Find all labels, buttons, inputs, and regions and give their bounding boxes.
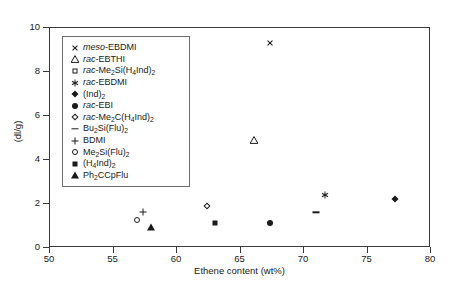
legend-item[interactable]: rac-EBTHI	[67, 54, 185, 66]
legend-marker	[67, 112, 83, 123]
triangle-open-marker-icon	[249, 136, 258, 144]
legend-marker	[67, 147, 83, 158]
x-tick-label: 60	[162, 253, 190, 264]
legend-marker	[67, 170, 83, 181]
legend-item[interactable]: rac-EBDMI	[67, 77, 185, 89]
x-tick-label: 55	[99, 253, 127, 264]
circle-open-marker-icon	[134, 217, 140, 223]
x-tick-label: 50	[35, 253, 63, 264]
asterisk-marker-icon	[72, 79, 79, 86]
legend-marker	[67, 100, 83, 111]
data-point	[206, 205, 207, 206]
y-tick-mark	[43, 27, 49, 28]
asterisk-marker-icon	[322, 191, 329, 198]
legend-item[interactable]: Ph2CCpFlu	[67, 170, 185, 182]
legend-marker	[67, 135, 83, 146]
y-tick-label: 8	[16, 65, 40, 76]
legend-item-label: rac-EBTHI	[83, 54, 125, 65]
square-open-marker-icon	[73, 68, 78, 73]
circle-filled-marker-icon	[72, 103, 78, 109]
legend-item[interactable]: meso-EBDMI	[67, 42, 185, 54]
legend-item[interactable]: (H4Ind)2	[67, 158, 185, 170]
diamond-filled-marker-icon	[71, 91, 78, 98]
data-point	[143, 212, 144, 213]
legend-item[interactable]: rac-EBI	[67, 100, 185, 112]
cross-marker-icon	[72, 44, 79, 51]
y-tick-mark	[43, 203, 49, 204]
data-point	[270, 223, 271, 224]
chart-legend: meso-EBDMIrac-EBTHIrac-Me2Si(H4Ind)2rac-…	[62, 36, 190, 187]
y-tick-label: 0	[16, 241, 40, 252]
y-tick-mark	[43, 71, 49, 72]
data-point	[137, 220, 138, 221]
data-point	[151, 226, 152, 227]
legend-item[interactable]: rac-Me2Si(H4Ind)2	[67, 65, 185, 77]
x-tick-label: 75	[353, 253, 381, 264]
square-filled-marker-icon	[73, 161, 78, 166]
legend-item[interactable]: Me2Si(Flu)2	[67, 146, 185, 158]
legend-item[interactable]: (Ind)2	[67, 88, 185, 100]
y-tick-label: 4	[16, 153, 40, 164]
x-tick-label: 80	[416, 253, 444, 264]
x-axis-title: Ethene content (wt%)	[49, 265, 430, 276]
circle-open-marker-icon	[72, 149, 78, 155]
dash-marker-icon	[72, 128, 79, 129]
y-tick-label: 10	[16, 21, 40, 32]
legend-item-label: rac-EBDMI	[83, 77, 127, 88]
legend-item-label: Me2Si(Flu)2	[83, 147, 130, 158]
data-point	[316, 212, 317, 213]
y-tick-label: 2	[16, 197, 40, 208]
data-point	[394, 199, 395, 200]
legend-marker	[67, 123, 83, 134]
triangle-filled-marker-icon	[147, 223, 155, 230]
plus-marker-icon	[140, 209, 147, 216]
legend-item-label: rac-EBI	[83, 100, 113, 111]
plus-marker-icon	[72, 137, 79, 144]
data-point	[253, 139, 254, 140]
square-filled-marker-icon	[212, 221, 217, 226]
legend-item[interactable]: rac-Me2C(H4Ind)2	[67, 112, 185, 124]
triangle-open-marker-icon	[71, 55, 80, 63]
legend-marker	[67, 65, 83, 76]
legend-item-label: (H4Ind)2	[83, 158, 116, 169]
data-point	[325, 194, 326, 195]
legend-item[interactable]: Bu2Si(Flu)2	[67, 123, 185, 135]
legend-item-label: meso-EBDMI	[83, 42, 137, 53]
legend-marker	[67, 54, 83, 65]
legend-marker	[67, 77, 83, 88]
legend-item-label: rac-Me2C(H4Ind)2	[83, 112, 154, 123]
x-tick-label: 70	[289, 253, 317, 264]
legend-item-label: (Ind)2	[83, 89, 105, 100]
circle-filled-marker-icon	[267, 220, 273, 226]
y-tick-mark	[43, 115, 49, 116]
triangle-filled-marker-icon	[71, 172, 79, 179]
legend-item-label: BDMI	[83, 135, 106, 146]
legend-item-label: Ph2CCpFlu	[83, 170, 128, 181]
data-point	[270, 42, 271, 43]
legend-item-label: Bu2Si(Flu)2	[83, 123, 128, 134]
legend-item-label: rac-Me2Si(H4Ind)2	[83, 65, 155, 76]
legend-marker	[67, 158, 83, 169]
y-tick-label: 6	[16, 109, 40, 120]
dash-marker-icon	[313, 212, 320, 213]
legend-item[interactable]: BDMI	[67, 135, 185, 147]
legend-marker	[67, 89, 83, 100]
y-tick-mark	[43, 159, 49, 160]
x-tick-label: 65	[226, 253, 254, 264]
legend-marker	[67, 42, 83, 53]
scatter-chart-figure: (dl/g) Ethene content (wt%) 1086420 5055…	[0, 0, 457, 288]
diamond-open-marker-icon	[71, 114, 78, 121]
cross-marker-icon	[267, 39, 274, 46]
data-point	[214, 223, 215, 224]
